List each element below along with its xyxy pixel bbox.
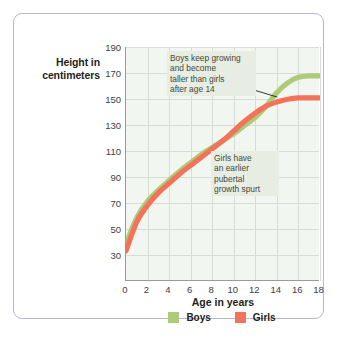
y-tick-50: 50 xyxy=(95,224,121,235)
x-tick-12: 12 xyxy=(245,284,263,295)
y-tick-170: 170 xyxy=(95,68,121,79)
y-tick-30: 30 xyxy=(95,250,121,261)
y-tick-150: 150 xyxy=(95,94,121,105)
y-tick-190: 190 xyxy=(95,42,121,53)
y-axis-title-line2: centimeters xyxy=(22,69,100,82)
x-tick-0: 0 xyxy=(116,284,134,295)
y-axis-title: Height in centimeters xyxy=(22,56,100,81)
x-tick-2: 2 xyxy=(138,284,156,295)
x-tick-6: 6 xyxy=(181,284,199,295)
y-tick-90: 90 xyxy=(95,172,121,183)
x-tick-14: 14 xyxy=(267,284,285,295)
legend-item-boys: Boys xyxy=(168,312,210,323)
legend-item-girls: Girls xyxy=(235,312,276,323)
x-axis-title: Age in years xyxy=(125,296,321,308)
legend-label-girls: Girls xyxy=(253,312,276,323)
y-axis-title-line1: Height in xyxy=(22,56,100,69)
x-tick-16: 16 xyxy=(288,284,306,295)
x-tick-4: 4 xyxy=(159,284,177,295)
y-tick-110: 110 xyxy=(95,146,121,157)
legend-label-boys: Boys xyxy=(186,312,210,323)
annotation-girls-note: Girls have an earlier pubertal growth sp… xyxy=(211,151,279,196)
legend-swatch-boys-icon xyxy=(168,312,179,323)
plot-area: Boys keep growing and become taller than… xyxy=(125,47,319,281)
y-tick-70: 70 xyxy=(95,198,121,209)
annotation-boys-note: Boys keep growing and become taller than… xyxy=(167,51,256,96)
x-tick-10: 10 xyxy=(224,284,242,295)
chart-card: Height in centimeters Boys keep growing … xyxy=(13,13,324,319)
x-tick-18: 18 xyxy=(310,284,328,295)
y-tick-130: 130 xyxy=(95,120,121,131)
x-tick-8: 8 xyxy=(202,284,220,295)
chart-legend: Boys Girls xyxy=(125,312,319,323)
legend-swatch-girls-icon xyxy=(235,312,246,323)
